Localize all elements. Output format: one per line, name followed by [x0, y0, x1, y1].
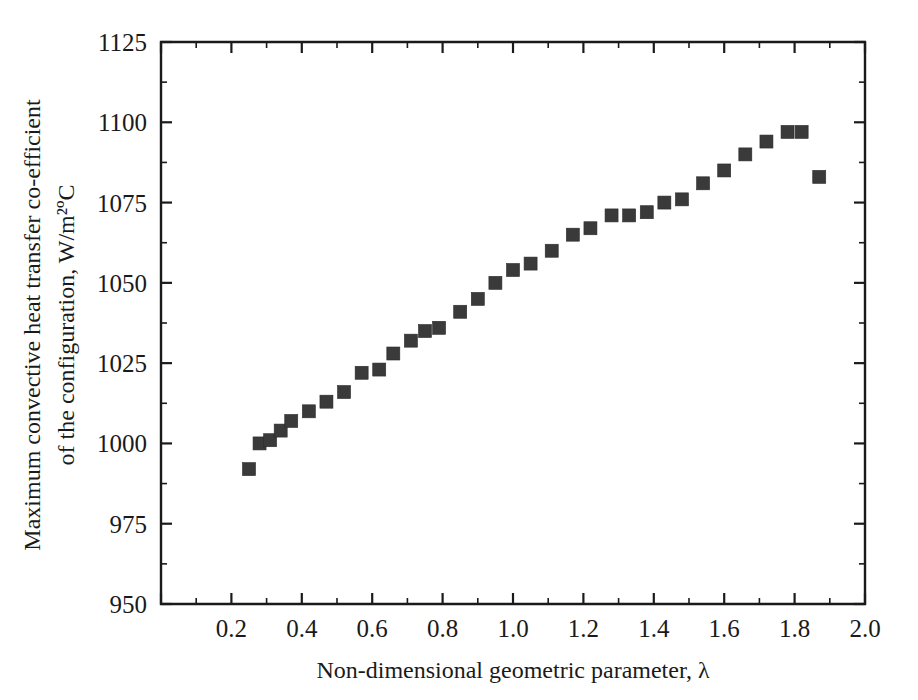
x-tick-label: 0.4 [286, 615, 318, 642]
data-series-markers [243, 125, 826, 475]
chart-figure: 950975100010251050107511001125 0.20.40.6… [0, 0, 918, 700]
x-tick-label: 1.8 [779, 615, 810, 642]
x-tick-label: 1.4 [638, 615, 670, 642]
data-point-marker [507, 264, 520, 277]
data-point-marker [760, 135, 773, 148]
x-tick-label: 1.0 [497, 615, 528, 642]
y-tick-label: 1025 [97, 350, 147, 377]
y-axis-title-line-2: of the configuration, W/m²ºC [53, 185, 79, 466]
data-point-marker [658, 196, 671, 209]
x-axis-title: Non-dimensional geometric parameter, λ [316, 657, 710, 683]
data-point-marker [605, 209, 618, 222]
y-tick-label: 1075 [97, 190, 147, 217]
data-point-marker [623, 209, 636, 222]
data-point-marker [545, 244, 558, 257]
axis-frame [161, 42, 865, 604]
plot-frame [161, 42, 865, 604]
data-point-marker [387, 347, 400, 360]
scatter-plot: 950975100010251050107511001125 0.20.40.6… [0, 0, 918, 700]
x-axis-ticks [161, 42, 865, 604]
data-point-marker [471, 292, 484, 305]
data-point-marker [243, 463, 256, 476]
y-tick-label: 1100 [98, 109, 147, 136]
data-point-marker [697, 177, 710, 190]
data-point-marker [739, 148, 752, 161]
y-tick-label: 1050 [97, 270, 147, 297]
data-point-marker [419, 325, 432, 338]
y-axis-title: Maximum convective heat transfer co-effi… [19, 99, 79, 551]
data-point-marker [781, 125, 794, 138]
data-point-marker [718, 164, 731, 177]
data-point-marker [795, 125, 808, 138]
data-point-marker [489, 276, 502, 289]
x-tick-label: 0.8 [427, 615, 458, 642]
y-tick-label: 1125 [98, 29, 147, 56]
data-point-marker [355, 366, 368, 379]
data-point-marker [285, 414, 298, 427]
y-tick-label: 1000 [97, 430, 147, 457]
data-point-marker [524, 257, 537, 270]
x-tick-label: 0.2 [216, 615, 247, 642]
x-tick-label: 1.6 [709, 615, 740, 642]
data-point-marker [454, 305, 467, 318]
data-point-marker [302, 405, 315, 418]
data-point-marker [566, 228, 579, 241]
data-point-marker [433, 321, 446, 334]
data-point-marker [404, 334, 417, 347]
y-tick-label: 975 [110, 511, 148, 538]
x-tick-label: 0.6 [357, 615, 388, 642]
data-point-marker [338, 386, 351, 399]
y-axis-ticks [161, 42, 865, 604]
data-point-marker [813, 170, 826, 183]
y-axis-title-line-1: Maximum convective heat transfer co-effi… [19, 99, 45, 551]
data-point-marker [675, 193, 688, 206]
data-point-marker [640, 206, 653, 219]
data-point-marker [584, 222, 597, 235]
x-tick-label: 2.0 [849, 615, 880, 642]
y-axis-tick-labels: 950975100010251050107511001125 [97, 29, 147, 618]
data-point-marker [320, 395, 333, 408]
x-tick-label: 1.2 [568, 615, 599, 642]
data-point-marker [373, 363, 386, 376]
y-tick-label: 950 [110, 591, 148, 618]
x-axis-tick-labels: 0.20.40.60.81.01.21.41.61.82.0 [216, 615, 881, 642]
